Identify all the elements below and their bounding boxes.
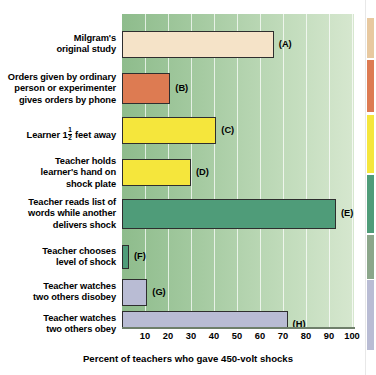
category-label-line: words while another <box>0 208 116 219</box>
category-label: Milgram'soriginal study <box>0 33 116 55</box>
fraction-one-half: 12 <box>68 127 72 141</box>
category-label-line: Teacher holds <box>0 156 116 167</box>
x-axis-ticks: 102030405060708090100 <box>0 331 376 345</box>
bar-value-tag: (D) <box>196 167 209 177</box>
category-label-line: learner's hand on <box>0 167 116 178</box>
bar-value-tag: (A) <box>279 39 292 49</box>
bar-f <box>122 245 129 269</box>
gridline-30 <box>191 14 192 328</box>
bar-value-tag: (G) <box>152 287 165 297</box>
x-tick-label: 100 <box>337 331 367 341</box>
gridline-100 <box>352 14 353 328</box>
x-axis-line <box>122 327 355 329</box>
gridline-80 <box>306 14 307 328</box>
bar-value-tag: (B) <box>175 83 188 93</box>
category-label-line: Milgram's <box>0 33 116 44</box>
gridline-40 <box>214 14 215 328</box>
key-strip-divider <box>365 0 366 375</box>
gridline-90 <box>329 14 330 328</box>
bar-d <box>122 159 191 186</box>
category-label-line: Teacher watches <box>0 281 116 292</box>
category-labels: Milgram'soriginal studyOrders given by o… <box>0 14 120 328</box>
category-label: Orders given by ordinaryperson or experi… <box>0 72 116 106</box>
category-label-line: delivers shock <box>0 220 116 231</box>
category-label-line: Teacher reads list of <box>0 197 116 208</box>
category-label: Learner 112 feet away <box>0 127 116 141</box>
category-label: Teacher chooseslevel of shock <box>0 246 116 268</box>
color-key-swatch <box>367 115 374 173</box>
category-label-line: level of shock <box>0 257 116 268</box>
category-label-line: shock plate <box>0 179 116 190</box>
category-label-line: gives orders by phone <box>0 95 116 106</box>
category-label: Teacher watchestwo others disobey <box>0 281 116 303</box>
category-label-line: Orders given by ordinary <box>0 72 116 83</box>
x-axis-label: Percent of teachers who gave 450-volt sh… <box>0 353 376 364</box>
gridline-70 <box>283 14 284 328</box>
bar-e <box>122 199 336 229</box>
bar-value-tag: (E) <box>341 208 353 218</box>
gridline-60 <box>260 14 261 328</box>
category-label-line: Teacher chooses <box>0 246 116 257</box>
bar-a <box>122 31 274 58</box>
category-label-line: two others disobey <box>0 292 116 303</box>
color-key-swatch <box>367 18 374 58</box>
bar-g <box>122 279 147 306</box>
category-label-line: Learner 112 feet away <box>0 127 116 141</box>
bar-h <box>122 311 288 328</box>
bar-c <box>122 117 216 144</box>
bar-value-tag: (F) <box>134 251 146 261</box>
gridline-50 <box>237 14 238 328</box>
color-key-swatch <box>367 175 374 233</box>
category-label-line: person or experimenter <box>0 83 116 94</box>
category-label: Teacher holdslearner's hand onshock plat… <box>0 156 116 190</box>
category-label: Teacher reads list ofwords while another… <box>0 197 116 231</box>
plot-area: (A)(B)(C)(D)(E)(F)(G)(H) <box>122 14 354 328</box>
bar-value-tag: (C) <box>221 125 234 135</box>
color-key-strip <box>367 0 374 375</box>
bar-chart-figure: Milgram'soriginal studyOrders given by o… <box>0 0 376 375</box>
color-key-swatch <box>367 235 374 279</box>
color-key-swatch <box>367 280 374 350</box>
category-label-line: Teacher watches <box>0 313 116 324</box>
color-key-swatch <box>367 60 374 112</box>
bar-b <box>122 73 170 104</box>
category-label-line: original study <box>0 44 116 55</box>
